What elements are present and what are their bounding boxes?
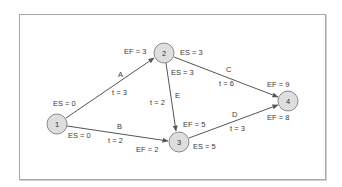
activity-c-name: C <box>226 65 232 74</box>
activity-d-name: D <box>232 110 238 119</box>
node-4-label: 4 <box>286 97 290 106</box>
activity-a-duration: t = 3 <box>112 88 127 97</box>
activity-a-es: ES = 0 <box>53 99 76 108</box>
activity-c-ef: EF = 9 <box>267 80 289 89</box>
node-2: 2 <box>154 43 174 63</box>
activity-d-ef: EF = 8 <box>267 113 289 122</box>
activity-e-es: ES = 3 <box>171 68 194 77</box>
activity-d-es: ES = 5 <box>193 142 216 151</box>
activity-c-es: ES = 3 <box>180 48 203 57</box>
node-1-label: 1 <box>55 120 59 129</box>
activity-d-duration: t = 3 <box>230 124 245 133</box>
node-3: 3 <box>169 132 189 152</box>
activity-a-arrow <box>66 58 154 118</box>
node-1: 1 <box>47 114 67 134</box>
node-2-label: 2 <box>162 49 166 58</box>
activity-e-duration: t = 2 <box>150 98 165 107</box>
activity-e-name: E <box>175 91 180 100</box>
activity-b-es: ES = 0 <box>68 131 91 140</box>
activity-a-name: A <box>118 70 123 79</box>
node-4: 4 <box>278 91 298 111</box>
activity-e-ef: EF = 5 <box>183 120 205 129</box>
activity-c-duration: t = 6 <box>219 79 234 88</box>
activity-b-ef: EF = 2 <box>136 145 158 154</box>
activity-a-ef: EF = 3 <box>124 47 146 56</box>
activity-b-duration: t = 2 <box>108 136 123 145</box>
activity-b-name: B <box>117 122 122 131</box>
node-3-label: 3 <box>177 138 181 147</box>
network-diagram: 1 2 3 4 A t = 3 ES = 0 EF = 3 B t = 2 ES… <box>0 0 342 187</box>
activity-c-arrow <box>174 57 278 97</box>
